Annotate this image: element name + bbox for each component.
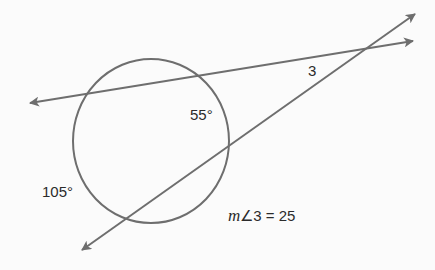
equation-rest: ∠3 = 25 — [240, 207, 295, 224]
arc-label-105: 105° — [42, 183, 73, 200]
equation: m∠3 = 25 — [228, 206, 295, 225]
geometry-diagram: 55° 105° 3 m∠3 = 25 — [0, 0, 435, 270]
angle-label-3: 3 — [308, 62, 316, 79]
equation-m: m — [228, 206, 240, 225]
secant-upper-line — [30, 41, 413, 103]
arc-label-55: 55° — [190, 106, 213, 123]
